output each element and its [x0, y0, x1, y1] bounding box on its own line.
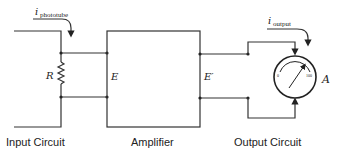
- input-top-wire: [14, 31, 61, 53]
- resistor-icon: [58, 62, 64, 84]
- ammeter-icon: 0 100: [274, 56, 316, 98]
- output-current-subscript: output: [273, 20, 291, 28]
- output-current-label: i: [268, 15, 271, 26]
- junction-dot: [198, 52, 201, 55]
- output-current-arrow-icon: [267, 29, 308, 43]
- amplifier-input-voltage-label: E: [110, 71, 119, 82]
- input-circuit-caption: Input Circuit: [6, 136, 65, 148]
- amplifier-caption: Amplifier: [131, 136, 174, 148]
- junction-dot: [198, 96, 201, 99]
- output-circuit-caption: Output Circuit: [234, 136, 301, 148]
- input-bottom-wire: [14, 97, 61, 127]
- junction-dot: [59, 95, 62, 98]
- junction-dot: [59, 51, 62, 54]
- phototube-current-subscript: phototube: [40, 11, 68, 19]
- output-circuit: 0 100 A i output Output Circuit: [198, 15, 330, 148]
- meter-scale-min: 0: [277, 73, 279, 78]
- amplifier-output-voltage-label: E′: [203, 71, 214, 82]
- amplifier-block: E E′ Amplifier: [107, 31, 214, 148]
- phototube-current-label: i: [35, 6, 38, 17]
- meter-scale-max: 100: [306, 73, 312, 78]
- amplifier-box: [107, 31, 200, 127]
- resistor-label: R: [45, 70, 54, 81]
- phototube-current-arrow-icon: [33, 19, 71, 34]
- input-circuit: i phototube R Input Circuit: [6, 6, 109, 148]
- meter-bottom-wire: [248, 98, 295, 118]
- meter-label: A: [321, 73, 330, 86]
- circuit-diagram: i phototube R Input Circuit E E′ Amplifi…: [0, 0, 341, 153]
- meter-top-wire: [248, 42, 295, 54]
